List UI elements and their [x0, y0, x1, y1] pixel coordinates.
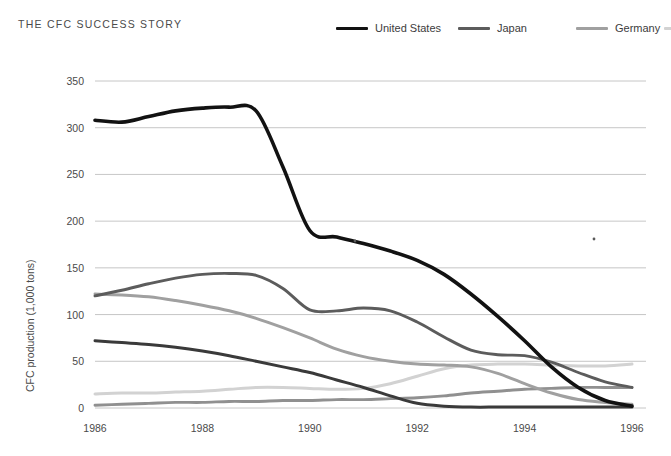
x-tick-label: 1992 — [406, 422, 430, 434]
chart-container: THE CFC SUCCESS STORY United StatesJapan… — [0, 0, 671, 456]
legend-swatch-icon — [576, 27, 608, 30]
speck-marks-group — [354, 238, 596, 243]
legend-item-france[interactable]: France — [664, 19, 671, 38]
y-tick-label: 250 — [66, 168, 84, 180]
series-line-china — [95, 341, 632, 407]
x-tick-label: 1990 — [298, 422, 322, 434]
legend-item-label: United States — [375, 23, 441, 34]
x-tick-label: 1988 — [191, 422, 215, 434]
legend-swatch-icon — [336, 27, 368, 30]
x-tick-labels-group: 198619881990199219941996 — [83, 422, 644, 434]
legend-item-united-states[interactable]: United States — [336, 19, 458, 38]
legend-swatch-icon — [664, 27, 671, 30]
y-tick-label: 100 — [66, 309, 84, 321]
line-chart-plot: 050100150200250300350 198619881990199219… — [0, 0, 671, 456]
page-title: THE CFC SUCCESS STORY — [18, 18, 182, 30]
chart-legend: United StatesJapanGermanyFranceChinaIndi… — [336, 19, 664, 38]
legend-item-germany[interactable]: Germany — [576, 19, 664, 38]
series-line-japan — [95, 273, 632, 387]
y-tick-label: 150 — [66, 262, 84, 274]
y-tick-label: 350 — [66, 75, 84, 87]
series-line-india — [95, 387, 632, 405]
legend-item-label: Germany — [615, 23, 660, 34]
y-axis-title: CFC production (1,000 tons) — [24, 260, 36, 392]
y-tick-label: 50 — [72, 355, 84, 367]
x-tick-label: 1986 — [83, 422, 107, 434]
legend-item-japan[interactable]: Japan — [458, 19, 576, 38]
legend-item-label: Japan — [497, 23, 527, 34]
y-tick-label: 300 — [66, 122, 84, 134]
y-tick-labels-group: 050100150200250300350 — [66, 75, 84, 414]
y-tick-label: 0 — [78, 402, 84, 414]
x-tick-label: 1996 — [620, 422, 644, 434]
speck-mark-2 — [593, 238, 596, 241]
x-tick-label: 1994 — [513, 422, 537, 434]
y-tick-label: 200 — [66, 215, 84, 227]
legend-swatch-icon — [458, 27, 490, 30]
series-lines-group — [95, 105, 632, 407]
speck-mark-1 — [354, 240, 357, 243]
